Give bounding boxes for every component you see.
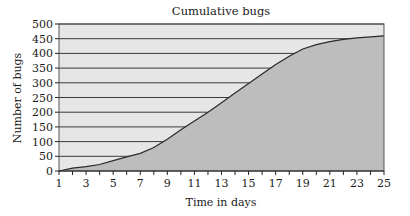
y-tick-label: 400 (32, 47, 53, 60)
chart-title: Cumulative bugs (172, 4, 270, 18)
x-tick-label: 21 (323, 177, 337, 190)
x-tick-label: 17 (269, 177, 283, 190)
y-tick-label: 250 (32, 92, 53, 105)
y-axis-label: Number of bugs (11, 52, 24, 143)
y-tick-label: 100 (32, 136, 53, 149)
y-tick-label: 0 (46, 165, 53, 178)
y-tick-label: 150 (32, 121, 53, 134)
y-tick-label: 350 (32, 62, 53, 75)
x-axis-ticks: 135791113151719212325 (56, 171, 392, 190)
x-tick-label: 13 (215, 177, 229, 190)
cumulative-bugs-chart: 135791113151719212325 050100150200250300… (0, 0, 410, 216)
y-tick-label: 300 (32, 77, 53, 90)
x-tick-label: 23 (350, 177, 364, 190)
x-tick-label: 19 (296, 177, 310, 190)
y-tick-label: 200 (32, 106, 53, 119)
x-tick-label: 11 (187, 177, 201, 190)
y-tick-label: 450 (32, 33, 53, 46)
x-tick-label: 3 (83, 177, 90, 190)
x-tick-label: 15 (242, 177, 256, 190)
x-tick-label: 7 (137, 177, 144, 190)
x-tick-label: 5 (110, 177, 117, 190)
x-tick-label: 25 (377, 177, 391, 190)
x-tick-label: 1 (56, 177, 63, 190)
y-axis-ticks: 050100150200250300350400450500 (32, 18, 59, 178)
x-axis-label: Time in days (186, 196, 257, 209)
y-tick-label: 50 (39, 150, 53, 163)
x-tick-label: 9 (164, 177, 171, 190)
y-tick-label: 500 (32, 18, 53, 31)
